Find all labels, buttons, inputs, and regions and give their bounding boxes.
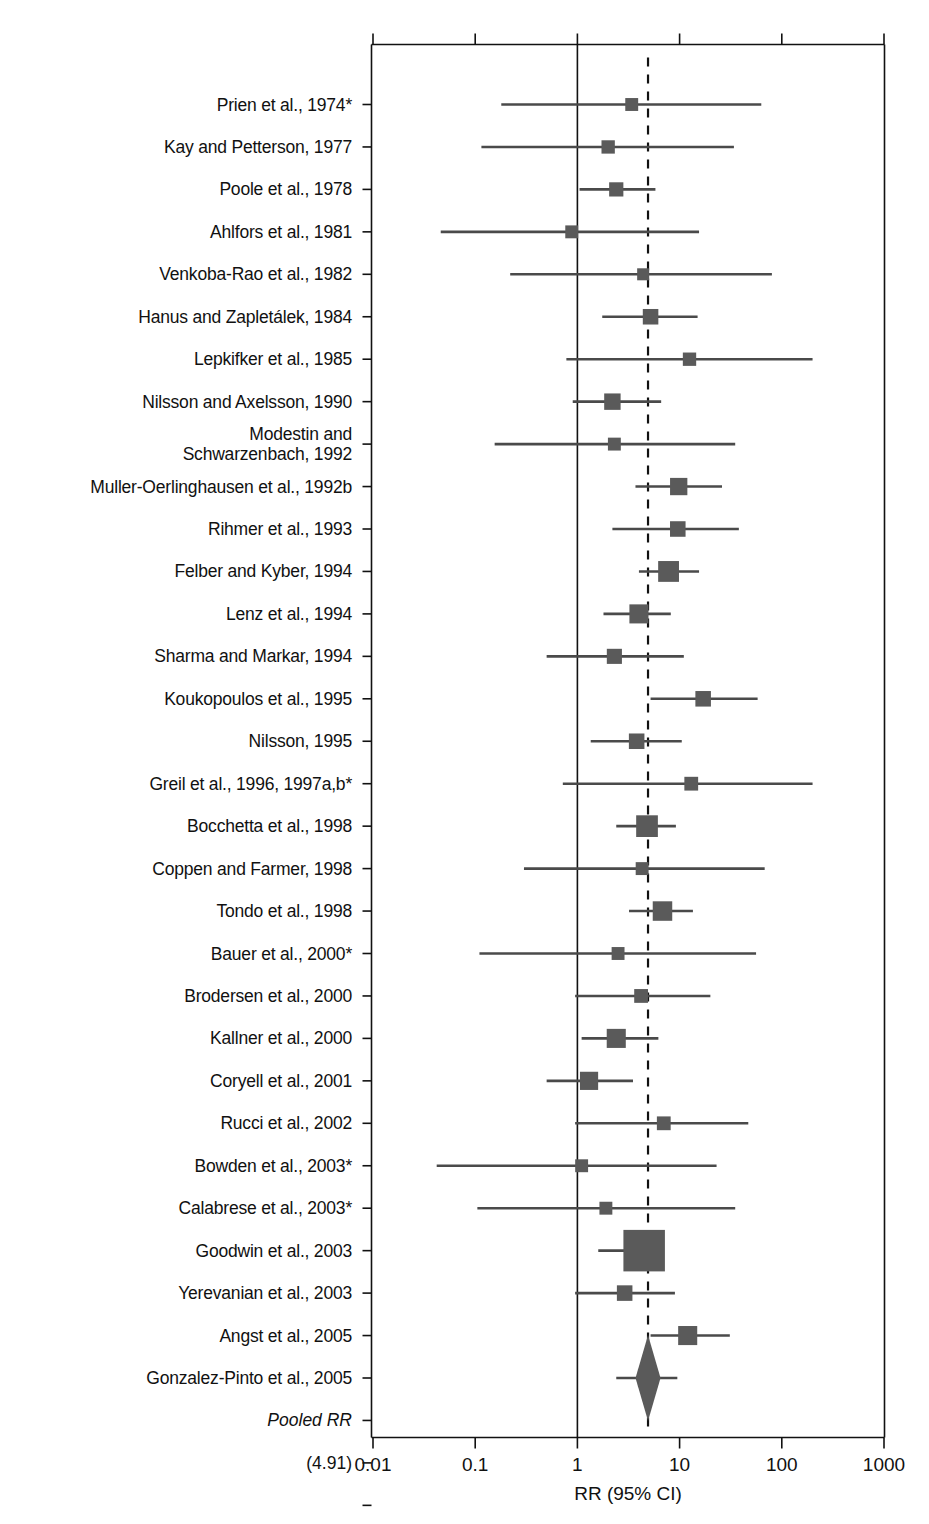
forest-row (573, 393, 661, 409)
forest-row (575, 1285, 675, 1301)
x-tick-label: 0.01 (355, 1454, 392, 1476)
study-label: Kay and Petterson, 1977 (0, 137, 352, 157)
study-label: Angst et al., 2005 (0, 1326, 352, 1346)
effect-size-marker (670, 521, 686, 537)
effect-size-marker (657, 1116, 671, 1130)
effect-size-marker (637, 268, 649, 280)
study-label: Nilsson, 1995 (0, 731, 352, 751)
effect-size-marker (608, 438, 621, 451)
study-label: Bowden et al., 2003* (0, 1156, 352, 1176)
effect-size-marker (599, 1202, 612, 1215)
pooled-rr-value: (4.91) (0, 1453, 352, 1473)
study-label: Coppen and Farmer, 1998 (0, 859, 352, 879)
forest-row (437, 1159, 717, 1172)
y-axis-ticks (363, 105, 372, 1506)
effect-size-marker (658, 561, 679, 582)
effect-size-marker (653, 901, 673, 921)
study-label: Hanus and Zapletálek, 1984 (0, 307, 352, 327)
forest-row (639, 561, 699, 582)
forest-row (481, 140, 734, 153)
study-label: Rucci et al., 2002 (0, 1113, 352, 1133)
forest-row (563, 777, 813, 791)
forest-row (651, 1326, 730, 1345)
effect-size-marker (607, 649, 622, 664)
effect-size-marker (636, 862, 649, 875)
effect-size-marker (678, 1326, 697, 1345)
study-label: Felber and Kyber, 1994 (0, 561, 352, 581)
effect-size-marker (601, 140, 614, 153)
forest-row (575, 989, 710, 1003)
effect-size-marker (609, 182, 623, 196)
study-label: Ahlfors et al., 1981 (0, 222, 352, 242)
study-label: Bauer et al., 2000* (0, 944, 352, 964)
effect-size-marker (684, 777, 698, 791)
study-label: Venkoba-Rao et al., 1982 (0, 264, 352, 284)
x-tick-label: 1 (572, 1454, 583, 1476)
forest-row (602, 309, 697, 325)
study-label: Koukopoulos et al., 1995 (0, 689, 352, 709)
study-label: Modestin and Schwarzenbach, 1992 (0, 424, 352, 464)
study-label: Yerevanian et al., 2003 (0, 1283, 352, 1303)
pooled-effect-diamond (636, 1335, 661, 1421)
study-label: Lepkifker et al., 1985 (0, 349, 352, 369)
x-tick-label: 0.1 (462, 1454, 488, 1476)
study-label: Nilsson and Axelsson, 1990 (0, 392, 352, 412)
study-label: Gonzalez-Pinto et al., 2005 (0, 1368, 352, 1388)
forest-row (566, 353, 812, 366)
pooled-rr-label: Pooled RR (0, 1410, 352, 1430)
effect-size-marker (617, 1285, 633, 1301)
forest-row (580, 182, 656, 196)
forest-row (598, 1230, 665, 1272)
effect-size-marker (623, 1230, 665, 1272)
forest-row (441, 225, 699, 238)
forest-row (501, 98, 761, 111)
effect-size-marker (612, 947, 625, 960)
forest-row (603, 604, 670, 623)
forest-plot-figure: Prien et al., 1974*Kay and Petterson, 19… (0, 0, 929, 1524)
effect-size-marker (575, 1159, 588, 1172)
study-label: Poole et al., 1978 (0, 179, 352, 199)
study-label: Sharma and Markar, 1994 (0, 646, 352, 666)
study-label: Calabrese et al., 2003* (0, 1198, 352, 1218)
forest-row (547, 1072, 633, 1090)
effect-size-marker (580, 1072, 598, 1090)
effect-size-marker (643, 309, 659, 325)
effect-size-marker (636, 815, 658, 837)
forest-row (547, 649, 684, 664)
forest-row (582, 1029, 659, 1048)
x-tick-label: 10 (669, 1454, 690, 1476)
effect-size-marker (607, 1029, 626, 1048)
forest-row (510, 268, 772, 280)
forest-row (591, 733, 682, 749)
effect-size-marker (629, 733, 645, 749)
effect-size-marker (565, 225, 578, 238)
forest-row (524, 862, 765, 875)
forest-row (575, 1116, 748, 1130)
effect-size-marker (604, 393, 620, 409)
effect-size-marker (670, 478, 687, 495)
x-tick-label: 100 (766, 1454, 798, 1476)
study-label: Coryell et al., 2001 (0, 1071, 352, 1091)
study-label: Kallner et al., 2000 (0, 1028, 352, 1048)
x-tick-label: 1000 (863, 1454, 905, 1476)
study-label: Goodwin et al., 2003 (0, 1241, 352, 1261)
study-label: Brodersen et al., 2000 (0, 986, 352, 1006)
forest-row (612, 521, 738, 537)
study-label: Lenz et al., 1994 (0, 604, 352, 624)
forest-row (616, 815, 676, 837)
effect-size-marker (683, 353, 696, 366)
forest-row (479, 947, 756, 960)
study-label: Bocchetta et al., 1998 (0, 816, 352, 836)
study-label: Rihmer et al., 1993 (0, 519, 352, 539)
x-axis-title: RR (95% CI) (574, 1483, 682, 1505)
study-label: Prien et al., 1974* (0, 95, 352, 115)
effect-size-marker (625, 98, 638, 111)
study-label: Muller-Oerlinghausen et al., 1992b (0, 477, 352, 497)
forest-row (495, 438, 736, 451)
forest-row (629, 901, 693, 921)
study-label: Tondo et al., 1998 (0, 901, 352, 921)
forest-row (477, 1202, 735, 1215)
effect-size-marker (634, 989, 648, 1003)
forest-row (635, 478, 722, 495)
effect-size-marker (629, 604, 648, 623)
